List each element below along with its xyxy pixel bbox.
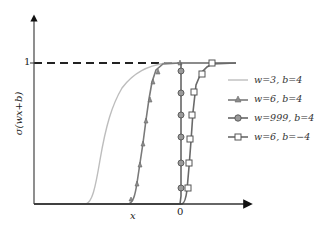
legend-circle-icon (227, 112, 249, 124)
series-w3-b4 (34, 63, 180, 204)
legend-label: w=6, b=−4 (254, 131, 310, 142)
y-axis-label: σ(wx+b) (13, 84, 24, 144)
x-axis-label: x (130, 210, 136, 221)
square-markers (185, 60, 215, 191)
legend-item-w3-b4: w=3, b=4 (227, 70, 314, 89)
legend-item-w999-b4: w=999, b=4 (227, 108, 314, 127)
series-w999-b4 (34, 63, 236, 204)
series-w6-b4 (34, 63, 180, 204)
legend: w=3, b=4 w=6, b=4 w=999, b=4 w=6, b=−4 (227, 70, 314, 146)
legend-item-w6-b4: w=6, b=4 (227, 89, 314, 108)
legend-triangle-icon (227, 93, 249, 105)
legend-plain-line-icon (227, 74, 249, 86)
xtick-0-label: 0 (177, 206, 183, 217)
ytick-1-label: 1 (24, 56, 30, 67)
legend-square-icon (227, 131, 249, 143)
series-w6-bneg4 (34, 63, 236, 204)
legend-label: w=3, b=4 (254, 74, 302, 85)
legend-label: w=999, b=4 (254, 112, 314, 123)
legend-item-w6-bneg4: w=6, b=−4 (227, 127, 314, 146)
legend-label: w=6, b=4 (254, 93, 302, 104)
